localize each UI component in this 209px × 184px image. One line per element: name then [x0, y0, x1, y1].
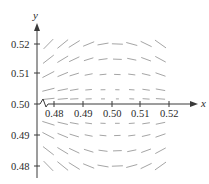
x-tick-label: 0.48	[45, 108, 63, 119]
slope-segment	[84, 164, 94, 168]
slope-segment	[141, 42, 151, 47]
slope-segment	[70, 149, 80, 154]
slope-segment	[70, 57, 80, 62]
slope-segment	[156, 134, 165, 137]
slope-segment	[84, 149, 93, 152]
slope-segment	[98, 43, 108, 45]
slope-segment	[127, 43, 137, 46]
slope-segment	[155, 162, 165, 169]
slope-segment	[143, 123, 150, 124]
slope-segment	[142, 74, 150, 76]
slope-segment	[70, 73, 79, 76]
y-tick-label: 0.48	[11, 161, 29, 172]
slope-segment	[58, 73, 68, 77]
x-tick-label: 0.49	[74, 108, 92, 119]
slope-segment	[85, 74, 92, 75]
slope-segment	[100, 135, 106, 136]
y-axis-arrow-icon	[34, 23, 40, 31]
x-axis-label: x	[200, 97, 206, 109]
slope-segment	[143, 89, 150, 90]
slope-segment	[84, 58, 93, 61]
y-tick-label: 0.49	[11, 130, 29, 141]
y-axis-label: y	[32, 9, 38, 21]
slope-segment	[142, 149, 151, 152]
slope-segment	[43, 88, 54, 91]
slope-segment	[43, 133, 54, 139]
slope-segment	[44, 161, 53, 170]
slope-segments	[43, 39, 166, 170]
slope-field-figure: y x 0.52 0.51 0.50 0.49 0.48 0.48 0.49 0…	[0, 0, 209, 184]
slope-segment	[43, 147, 53, 155]
slope-segment	[156, 57, 166, 62]
slope-segment	[99, 59, 107, 60]
slope-segment	[142, 135, 150, 137]
x-tick-label: 0.52	[160, 108, 178, 119]
slope-segment	[128, 58, 136, 60]
slope-segment	[58, 99, 67, 100]
x-tick-label: 0.51	[131, 108, 149, 119]
slope-segment	[58, 89, 68, 91]
slope-segment	[58, 56, 68, 62]
slope-segment	[156, 99, 164, 100]
slope-segment	[43, 72, 54, 78]
slope-segment	[69, 163, 79, 169]
slope-segment	[99, 150, 107, 151]
slope-segment	[43, 55, 53, 63]
slope-segment	[156, 89, 165, 91]
y-tick-label: 0.51	[11, 68, 29, 79]
y-tick-label: 0.50	[11, 99, 29, 110]
slope-segment	[129, 74, 135, 75]
slope-segment	[129, 135, 135, 136]
slope-segment	[142, 58, 151, 61]
slope-segment	[70, 123, 78, 124]
slope-segment	[156, 122, 165, 124]
x-axis	[37, 99, 191, 107]
slope-segment	[69, 41, 79, 47]
slope-segment	[156, 148, 166, 153]
slope-segment	[70, 89, 78, 90]
y-ticks: 0.52 0.51 0.50 0.49 0.48	[11, 39, 40, 172]
x-tick-label: 0.50	[103, 108, 121, 119]
slope-segment	[98, 165, 108, 167]
slope-segment	[86, 123, 92, 124]
x-axis-arrow-icon	[190, 101, 198, 107]
slope-segment	[141, 164, 151, 169]
slope-segment	[128, 150, 136, 152]
slope-segment	[156, 73, 165, 76]
slope-segment	[58, 134, 68, 138]
slope-segment	[155, 40, 165, 47]
slope-segment	[43, 98, 55, 99]
slope-segment	[86, 90, 92, 91]
slope-segment	[85, 135, 92, 136]
slope-segment	[58, 162, 68, 170]
slope-segment	[58, 40, 68, 48]
slope-segment	[58, 148, 68, 154]
slope-segment	[84, 42, 94, 46]
y-tick-label: 0.52	[11, 39, 29, 50]
slope-segment	[127, 165, 137, 168]
slope-segment	[100, 74, 106, 75]
slope-segment	[70, 134, 79, 137]
slope-segment	[43, 122, 54, 126]
slope-segment	[58, 122, 68, 124]
slope-segment	[44, 39, 53, 48]
